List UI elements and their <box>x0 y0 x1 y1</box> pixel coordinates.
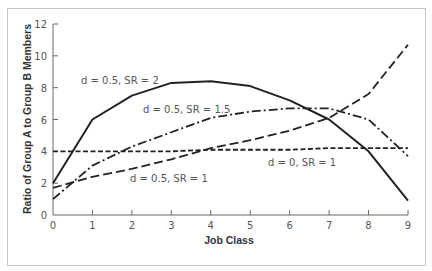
axes <box>53 24 408 215</box>
x-tick-label: 2 <box>129 220 135 231</box>
x-tick-label: 5 <box>247 220 253 231</box>
x-axis-title: Job Class <box>204 234 254 246</box>
series-label-sr15: d = 0.5, SR = 1.5 <box>143 104 230 115</box>
series-line-0 <box>53 81 408 200</box>
x-tick-label: 7 <box>326 220 332 231</box>
series-line-3 <box>53 148 408 151</box>
y-tick-label: 12 <box>34 19 47 30</box>
y-tick-label: 6 <box>41 115 47 126</box>
series-line-1 <box>53 108 408 199</box>
y-tick-label: 0 <box>41 210 47 221</box>
y-tick-label: 4 <box>41 146 47 157</box>
y-tick-label: 2 <box>41 178 47 189</box>
x-ticks: 0123456789 <box>50 210 411 231</box>
y-ticks: 024681012 <box>34 19 58 221</box>
y-axis-title: Ratio of Group A to Group B Members <box>21 24 33 214</box>
x-tick-label: 4 <box>208 220 214 231</box>
x-tick-label: 0 <box>50 220 56 231</box>
series-label-sr2: d = 0.5, SR = 2 <box>81 75 159 86</box>
y-tick-label: 10 <box>34 51 47 62</box>
series-label-d0: d = 0, SR = 1 <box>268 157 336 168</box>
x-tick-label: 8 <box>365 220 371 231</box>
x-tick-label: 3 <box>168 220 174 231</box>
series-lines <box>53 45 408 201</box>
x-tick-label: 9 <box>405 220 411 231</box>
line-chart: 024681012 0123456789 d = 0.5, SR = 2 d =… <box>0 0 432 271</box>
y-tick-label: 8 <box>41 83 47 94</box>
series-label-sr1: d = 0.5, SR = 1 <box>130 173 208 184</box>
x-tick-label: 1 <box>89 220 95 231</box>
x-tick-label: 6 <box>286 220 292 231</box>
